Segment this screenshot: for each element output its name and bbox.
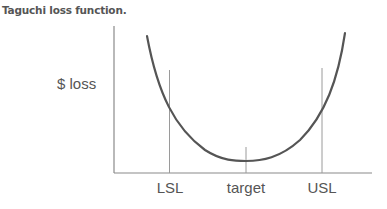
tick-label-target: target bbox=[227, 179, 266, 196]
loss-chart: $ loss LSL target USL bbox=[0, 0, 387, 209]
y-axis-label: $ loss bbox=[57, 75, 96, 92]
loss-curve bbox=[147, 33, 345, 161]
tick-label-usl: USL bbox=[307, 179, 336, 196]
tick-label-lsl: LSL bbox=[157, 179, 184, 196]
